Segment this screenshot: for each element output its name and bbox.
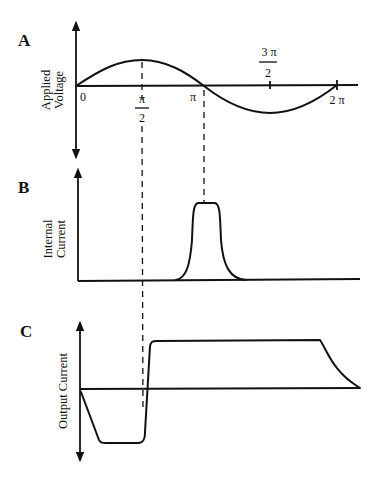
dashed-guide-pi-over-2	[142, 126, 143, 412]
panel-c: C Output Current	[20, 322, 360, 457]
internal-current-pulse	[176, 203, 246, 280]
y-axis-label-output-current: Output Current	[56, 352, 70, 429]
panel-letter-b: B	[18, 178, 29, 197]
tick-label-zero: 0	[80, 90, 86, 104]
panel-b: B Internal Current	[18, 173, 360, 281]
output-current-curve	[81, 340, 360, 443]
y-axis-label-internal: Internal	[41, 219, 55, 258]
tick-label-pi-over-2-denominator: 2	[139, 111, 145, 125]
y-axis-label-voltage: Voltage	[52, 71, 66, 109]
panel-a: A Applied Voltage 0 π 2 π 3 π 2 2 π	[18, 26, 358, 154]
x-axis	[76, 85, 358, 86]
tick-label-3pi-over-2-denominator: 2	[265, 66, 271, 80]
tick-label-two-pi: 2 π	[329, 93, 344, 107]
figure: A Applied Voltage 0 π 2 π 3 π 2 2 π B In…	[0, 0, 381, 479]
tick-label-3pi-over-2-numerator: 3 π	[261, 45, 276, 59]
zero-line	[80, 388, 360, 389]
y-axis-label-current: Current	[54, 219, 68, 258]
tick-label-pi: π	[190, 90, 196, 104]
panel-letter-c: C	[20, 322, 32, 341]
y-axis-label-applied: Applied	[39, 69, 53, 110]
x-axis	[78, 279, 360, 281]
panel-letter-a: A	[18, 31, 31, 50]
